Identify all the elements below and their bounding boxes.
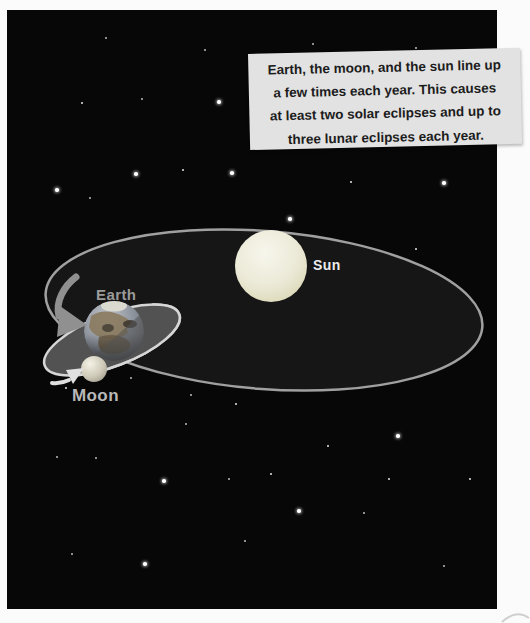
book-page: Earth, the moon, and the sun line up a f… [0, 0, 530, 623]
earth-label: Earth [96, 286, 136, 303]
moon-label: Moon [72, 386, 119, 406]
caption-box: Earth, the moon, and the sun line up a f… [248, 48, 522, 150]
moon [81, 356, 107, 382]
sun [235, 230, 307, 302]
sun-label: Sun [313, 257, 341, 273]
page-curl-mark [501, 609, 530, 623]
